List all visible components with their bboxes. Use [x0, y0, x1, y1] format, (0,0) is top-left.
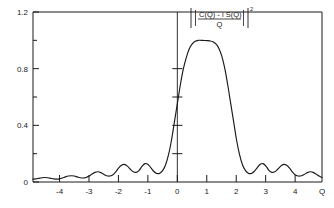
- x-tick-label-2: -2: [115, 187, 123, 196]
- chart-canvas: 1.2 0.8 0.4 0 -4 -3 -2 -1 0 1 2 3: [0, 0, 334, 208]
- x-tick-label-6: 2: [234, 187, 239, 196]
- x-axis-labels: -4 -3 -2 -1 0 1 2 3 4: [56, 187, 298, 196]
- x-tick-label-1: -3: [85, 187, 93, 196]
- x-tick-label-4: 0: [175, 187, 180, 196]
- x-tick-label-8: 4: [293, 187, 298, 196]
- y-tick-label-1: 0.4: [17, 121, 29, 130]
- x-tick-label-5: 1: [205, 187, 210, 196]
- x-axis-variable-label: Q: [319, 187, 325, 196]
- x-tick-label-7: 3: [263, 187, 268, 196]
- center-axis: [172, 12, 182, 182]
- y-axis-labels: 1.2 0.8 0.4 0: [17, 8, 29, 187]
- x-tick-label-0: -4: [56, 187, 64, 196]
- x-tick-label-3: -1: [144, 187, 152, 196]
- formula-numerator: C(Q) - i S(Q): [199, 10, 242, 19]
- fresnel-intensity-chart: 1.2 0.8 0.4 0 -4 -3 -2 -1 0 1 2 3: [0, 0, 334, 208]
- y-tick-label-0: 0: [24, 178, 29, 187]
- y-tick-label-3: 1.2: [17, 8, 29, 17]
- y-tick-label-2: 0.8: [17, 65, 29, 74]
- formula-denominator: Q: [217, 20, 223, 29]
- formula-annotation: C(Q) - i S(Q) Q 2: [191, 6, 253, 29]
- formula-exponent: 2: [250, 6, 253, 12]
- y-axis-ticks: [33, 12, 39, 182]
